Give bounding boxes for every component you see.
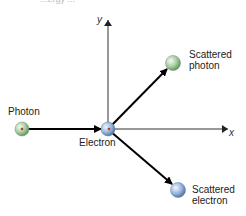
electron-dot (108, 128, 111, 131)
photon-label: Photon (8, 106, 40, 117)
photon-dot (21, 128, 24, 131)
title-fragment: ...ergy ... (40, 0, 75, 4)
scattered-electron-label: Scattered electron (192, 184, 235, 206)
scattered-photon-label-line1: Scattered (189, 49, 232, 60)
scattered-photon-arrow (110, 69, 167, 127)
compton-scattering-diagram: y x Photon Electron Scattered photon Sca… (0, 0, 246, 216)
scattered-photon-label: Scattered photon (189, 49, 232, 71)
scattered-photon-ball (166, 56, 181, 71)
y-axis-label: y (97, 14, 102, 25)
scattered-electron-arrow (110, 131, 172, 184)
scattered-electron-ball (171, 183, 186, 198)
scattered-electron-label-line1: Scattered (192, 184, 235, 195)
scattered-photon-label-line2: photon (189, 60, 232, 71)
x-axis-label: x (229, 127, 234, 138)
electron-label: Electron (79, 137, 116, 148)
scattered-electron-label-line2: electron (192, 195, 235, 206)
